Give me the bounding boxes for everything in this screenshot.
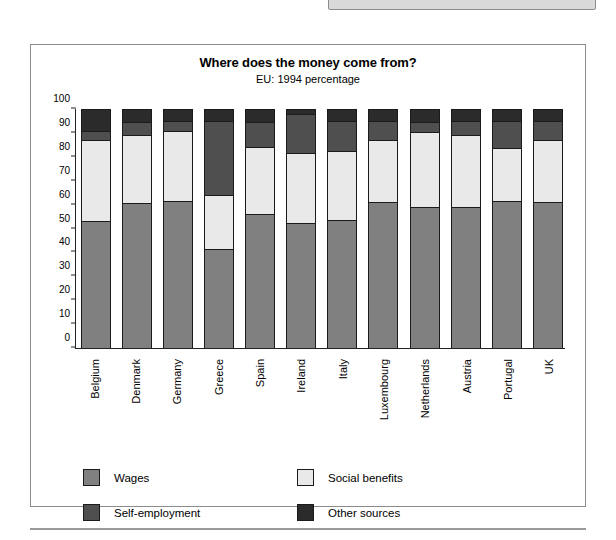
bar-segment[interactable] <box>368 121 398 140</box>
bar-segment[interactable] <box>410 122 440 132</box>
legend-item[interactable]: Other sources <box>297 504 497 521</box>
bar-segment[interactable] <box>410 109 440 122</box>
stacked-bar[interactable] <box>451 109 481 348</box>
bar-segment[interactable] <box>451 121 481 135</box>
bar-segment[interactable] <box>122 109 152 122</box>
legend-swatch-icon <box>83 469 100 486</box>
bar-segment[interactable] <box>204 249 234 348</box>
bar-segment[interactable] <box>327 151 357 220</box>
bar-segment[interactable] <box>81 221 111 348</box>
x-axis-label-text: Austria <box>461 359 473 393</box>
y-axis-tick-label: 80 <box>59 140 76 151</box>
bar-segment[interactable] <box>410 207 440 348</box>
bar-segment[interactable] <box>451 109 481 121</box>
bar-segment[interactable] <box>122 135 152 203</box>
x-axis-label: Portugal <box>493 353 523 433</box>
y-axis-tick-label: 50 <box>59 212 76 223</box>
bar-segment[interactable] <box>327 121 357 151</box>
x-axis-label: Spain <box>245 353 275 433</box>
x-axis-label-text: Netherlands <box>419 359 431 418</box>
bar-segment[interactable] <box>204 121 234 195</box>
bar-segment[interactable] <box>204 195 234 249</box>
bar-segment[interactable] <box>163 109 193 121</box>
x-axis-label-text: Spain <box>254 359 266 387</box>
stacked-bar[interactable] <box>245 109 275 348</box>
bar-segment[interactable] <box>492 109 522 121</box>
stacked-bar[interactable] <box>492 109 522 348</box>
legend-swatch-icon <box>83 504 100 521</box>
page-divider-rule <box>30 528 586 530</box>
bar-segment[interactable] <box>81 109 111 131</box>
bar-segment[interactable] <box>368 202 398 348</box>
stacked-bar[interactable] <box>81 109 111 348</box>
y-axis-tick-label: 10 <box>59 308 76 319</box>
bar-segment[interactable] <box>245 147 275 214</box>
x-axis-label: Germany <box>162 353 192 433</box>
y-axis-tick-label: 60 <box>59 188 76 199</box>
legend-swatch-icon <box>297 469 314 486</box>
bar-segment[interactable] <box>368 140 398 202</box>
stacked-bar[interactable] <box>204 109 234 348</box>
legend-swatch-icon <box>297 504 314 521</box>
legend-item-label: Other sources <box>328 507 400 519</box>
y-axis-tick-mark <box>71 299 76 300</box>
y-axis-tick-mark <box>71 275 76 276</box>
x-axis-label: Greece <box>204 353 234 433</box>
bar-segment[interactable] <box>122 122 152 135</box>
bar-segment[interactable] <box>533 109 563 121</box>
bar-segment[interactable] <box>163 131 193 202</box>
y-axis-tick-mark <box>71 108 76 109</box>
bar-segment[interactable] <box>286 153 316 222</box>
bar-segment[interactable] <box>492 121 522 148</box>
x-axis-label-text: Portugal <box>502 359 514 400</box>
y-axis-tick-label: 70 <box>59 164 76 175</box>
x-axis-label: Netherlands <box>410 353 440 433</box>
y-axis-tick-mark <box>71 251 76 252</box>
y-axis-tick-mark <box>71 347 76 348</box>
legend-item[interactable]: Self-employment <box>83 504 283 521</box>
bar-segment[interactable] <box>451 135 481 207</box>
x-axis-label: Austria <box>452 353 482 433</box>
bar-segment[interactable] <box>533 121 563 140</box>
y-axis-tick-mark <box>71 179 76 180</box>
x-axis-label-text: Italy <box>337 359 349 379</box>
x-axis-label: Italy <box>328 353 358 433</box>
bar-segment[interactable] <box>245 109 275 122</box>
bar-segment[interactable] <box>81 140 111 221</box>
y-axis-tick-mark <box>71 323 76 324</box>
bar-segment[interactable] <box>410 132 440 207</box>
bar-segment[interactable] <box>327 109 357 121</box>
y-axis-tick-label: 40 <box>59 236 76 247</box>
stacked-bar[interactable] <box>410 109 440 348</box>
bar-segment[interactable] <box>492 201 522 348</box>
bar-segment[interactable] <box>533 202 563 348</box>
legend-item[interactable]: Social benefits <box>297 469 497 486</box>
y-axis-tick-label: 20 <box>59 284 76 295</box>
bar-segment[interactable] <box>492 148 522 201</box>
bar-segment[interactable] <box>533 140 563 202</box>
x-axis-label-text: Greece <box>213 359 225 395</box>
stacked-bar[interactable] <box>122 109 152 348</box>
bar-segment[interactable] <box>451 207 481 348</box>
bar-segment[interactable] <box>327 220 357 348</box>
bar-segment[interactable] <box>122 203 152 348</box>
bar-segment[interactable] <box>81 131 111 141</box>
chart-subtitle: EU: 1994 percentage <box>31 73 585 85</box>
stacked-bar[interactable] <box>533 109 563 348</box>
bar-segment[interactable] <box>163 121 193 131</box>
bar-segment[interactable] <box>286 223 316 348</box>
stacked-bar[interactable] <box>286 109 316 348</box>
bar-segment[interactable] <box>245 122 275 147</box>
stacked-bar[interactable] <box>368 109 398 348</box>
legend-item[interactable]: Wages <box>83 469 283 486</box>
bar-segment[interactable] <box>245 214 275 348</box>
y-axis-tick-mark <box>71 131 76 132</box>
bar-segment[interactable] <box>368 109 398 121</box>
stacked-bar[interactable] <box>163 109 193 348</box>
chart-legend: WagesSocial benefitsSelf-employmentOther… <box>83 469 513 521</box>
clipped-gray-panel <box>328 0 596 10</box>
bar-segment[interactable] <box>204 109 234 121</box>
bar-segment[interactable] <box>286 114 316 153</box>
stacked-bar[interactable] <box>327 109 357 348</box>
bar-segment[interactable] <box>163 201 193 348</box>
